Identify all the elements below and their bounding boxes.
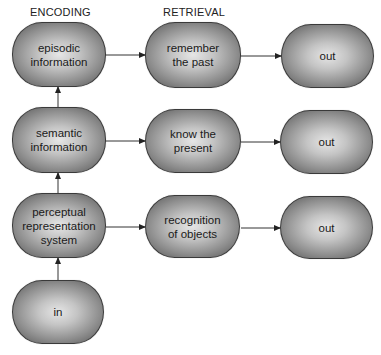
node-episodic-information: episodic information — [12, 22, 106, 87]
encoding-header: ENCODING — [30, 6, 91, 18]
retrieval-header: RETRIEVAL — [163, 6, 225, 18]
node-perceptual-representation-system: perceptual representation system — [12, 193, 106, 258]
node-know-the-present: know the present — [145, 109, 241, 173]
node-semantic-information: semantic information — [12, 107, 106, 173]
node-out-2: out — [280, 110, 373, 174]
node-out-1: out — [281, 24, 374, 88]
node-remember-the-past: remember the past — [145, 22, 241, 88]
node-in: in — [12, 280, 104, 344]
node-recognition-of-objects: recognition of objects — [145, 195, 240, 258]
node-out-3: out — [280, 196, 373, 259]
